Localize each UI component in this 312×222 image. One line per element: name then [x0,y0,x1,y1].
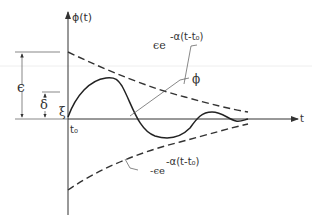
lower-envelope-curve [68,124,248,190]
upper-envelope-base-label: ϵe [153,39,166,52]
delta-label: δ [40,97,48,112]
stability-diagram: ϵ δ ξ ϕ(t) t t₀ ϵe -α(t-t₀) ϕ -ϵe -α(t-t… [0,0,312,222]
lower-envelope-leader [125,159,138,170]
y-axis-label: ϕ(t) [72,11,92,24]
x-axis-label: t [300,113,304,124]
phi-curve [68,78,248,138]
phi-leader [130,78,189,116]
upper-envelope-exp-label: -α(t-t₀) [170,31,204,42]
xi-label: ξ [59,105,66,119]
phi-label: ϕ [192,72,200,86]
epsilon-label: ϵ [17,79,25,95]
lower-envelope-exp-label: -α(t-t₀) [166,156,200,167]
lower-envelope-base-label: -ϵe [150,165,165,176]
origin-label: t₀ [70,124,78,135]
